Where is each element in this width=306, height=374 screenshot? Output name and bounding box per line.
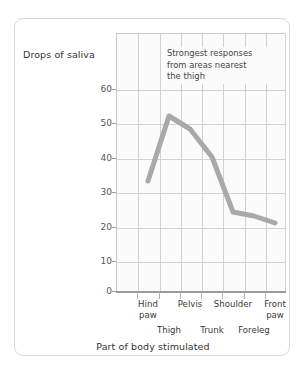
y-tick-label-50: 50 — [84, 118, 112, 128]
y-tick-label-20: 20 — [84, 222, 112, 232]
x-label-hind-paw-line1: Hind — [138, 299, 158, 309]
y-tick-label-10: 10 — [84, 256, 112, 266]
x-label-pelvis: Pelvis — [178, 299, 203, 310]
x-label-front-paw-line1: Front — [264, 299, 286, 309]
y-tick-label-0: 0 — [84, 286, 112, 296]
y-tick-label-60: 60 — [84, 84, 112, 94]
x-tick-mark-4 — [201, 292, 202, 299]
x-label-hind-paw-line2: paw — [139, 310, 157, 320]
x-label-thigh: Thigh — [157, 325, 181, 336]
x-tick-mark-1 — [137, 292, 138, 299]
x-axis-labels-primary: Hind paw Pelvis Shoulder Front paw — [116, 299, 286, 323]
x-label-hind-paw: Hind paw — [138, 299, 158, 320]
x-label-foreleg: Foreleg — [238, 325, 270, 336]
annotation-line-1: Strongest responses — [167, 48, 267, 60]
x-tick-mark-3 — [180, 292, 181, 299]
y-tick-label-40: 40 — [84, 153, 112, 163]
y-axis-ticks: 60 50 40 30 20 10 0 — [79, 19, 112, 357]
annotation-line-3: the thigh — [167, 71, 267, 83]
x-label-front-paw-line2: paw — [266, 310, 284, 320]
chart-annotation: Strongest responses from areas nearest t… — [165, 47, 269, 84]
x-tick-mark-6 — [244, 292, 245, 299]
y-tick-label-30: 30 — [84, 187, 112, 197]
x-tick-mark-7 — [265, 292, 266, 299]
x-axis-labels-secondary: Thigh Trunk Foreleg — [116, 325, 286, 339]
x-label-front-paw: Front paw — [264, 299, 286, 320]
x-tick-mark-2 — [159, 292, 160, 299]
x-label-trunk: Trunk — [200, 325, 223, 336]
chart-card: Drops of saliva 60 50 40 30 20 10 0 — [14, 18, 290, 356]
annotation-line-2: from areas nearest — [167, 60, 267, 72]
x-tick-mark-5 — [222, 292, 223, 299]
line-chart: Drops of saliva 60 50 40 30 20 10 0 — [15, 19, 291, 357]
x-axis-title: Part of body stimulated — [15, 341, 291, 352]
x-label-shoulder: Shoulder — [214, 299, 252, 310]
